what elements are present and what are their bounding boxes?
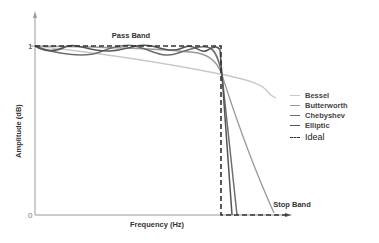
legend-item-elliptic: Elliptic	[290, 120, 348, 130]
legend-swatch-chebyshev	[290, 115, 300, 116]
legend-swatch-bessel	[290, 95, 300, 96]
axes	[31, 11, 292, 217]
legend-label: Ideal	[305, 132, 325, 142]
legend-item-ideal: Ideal	[290, 132, 348, 142]
y-axis-title: Amplitude (dB)	[14, 104, 23, 158]
series-ideal	[35, 46, 287, 215]
series-butterworth	[35, 46, 274, 213]
legend-label: Butterworth	[305, 101, 348, 110]
y-axis-arrow-icon	[33, 11, 37, 18]
legend: Bessel Butterworth Chebyshev Elliptic Id…	[290, 90, 348, 142]
series-chebyshev	[35, 45, 237, 215]
legend-swatch-butterworth	[290, 105, 300, 106]
legend-item-butterworth: Butterworth	[290, 100, 348, 110]
legend-item-bessel: Bessel	[290, 90, 348, 100]
legend-label: Chebyshev	[305, 111, 345, 120]
y-tick-label-1: 1	[28, 42, 33, 51]
legend-label: Bessel	[305, 91, 329, 100]
y-tick-label-0: 0	[28, 211, 33, 220]
legend-swatch-elliptic	[290, 125, 300, 126]
pass-band-label: Pass Band	[112, 31, 151, 40]
legend-item-chebyshev: Chebyshev	[290, 110, 348, 120]
stop-band-label: Stop Band	[273, 200, 311, 209]
legend-swatch-ideal	[290, 137, 300, 138]
x-axis-title: Frequency (Hz)	[130, 220, 185, 229]
legend-label: Elliptic	[305, 121, 330, 130]
